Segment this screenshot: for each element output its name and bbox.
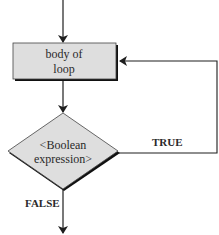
body-box-line-2: loop xyxy=(53,62,74,76)
true-label: TRUE xyxy=(152,136,183,148)
diamond-line-1: <Boolean xyxy=(40,138,87,152)
diamond-line-2: expression> xyxy=(34,152,92,166)
body-box-line-1: body of xyxy=(46,47,83,61)
flowchart: body of loop <Boolean expression> TRUE F… xyxy=(0,0,219,235)
false-label: FALSE xyxy=(25,197,60,209)
